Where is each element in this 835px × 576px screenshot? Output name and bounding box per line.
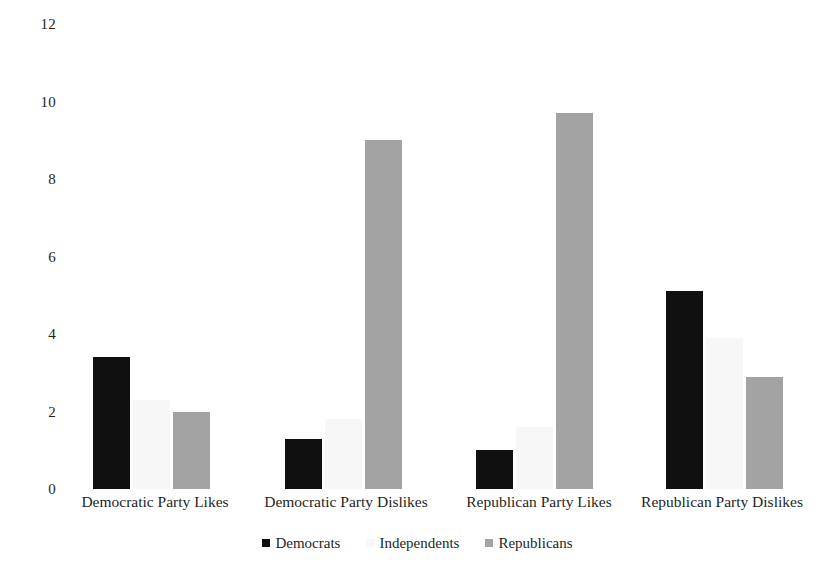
- legend-item-label: Republicans: [498, 534, 572, 552]
- bar[interactable]: [285, 439, 322, 489]
- legend-item-label: Independents: [379, 534, 459, 552]
- bar[interactable]: [666, 291, 703, 489]
- bar-group: [93, 19, 210, 489]
- bar[interactable]: [133, 400, 170, 489]
- legend-swatch-democrats: [262, 539, 270, 547]
- y-axis-tick-label: 12: [4, 16, 56, 32]
- bar-group: [666, 19, 783, 489]
- y-axis-tick-label: 8: [4, 171, 56, 187]
- bar[interactable]: [746, 377, 783, 489]
- x-axis-category-label: Republican Party Dislikes: [606, 492, 835, 512]
- y-axis: 121086420: [0, 0, 56, 576]
- bar[interactable]: [93, 357, 130, 489]
- chart-legend: DemocratsIndependentsRepublicans: [0, 532, 835, 554]
- bar[interactable]: [556, 113, 593, 489]
- y-axis-tick-label: 2: [4, 404, 56, 420]
- y-axis-tick-label: 4: [4, 326, 56, 342]
- y-axis-tick-label: 10: [4, 94, 56, 110]
- plot-area: Democratic Party LikesDemocratic Party D…: [56, 0, 835, 576]
- bar[interactable]: [706, 338, 743, 489]
- bar[interactable]: [173, 412, 210, 490]
- bar-chart: 121086420 Democratic Party LikesDemocrat…: [0, 0, 835, 576]
- bar-group: [476, 19, 593, 489]
- bar-group: [285, 19, 402, 489]
- legend-swatch-republicans: [485, 539, 493, 547]
- bar[interactable]: [476, 450, 513, 489]
- legend-swatch-independents: [366, 539, 374, 547]
- legend-item[interactable]: Independents: [366, 534, 459, 552]
- y-axis-tick-label: 6: [4, 249, 56, 265]
- legend-item[interactable]: Democrats: [262, 534, 340, 552]
- legend-item-label: Democrats: [275, 534, 340, 552]
- bar[interactable]: [365, 140, 402, 489]
- bar[interactable]: [516, 427, 553, 489]
- bar[interactable]: [325, 419, 362, 489]
- legend-item[interactable]: Republicans: [485, 534, 572, 552]
